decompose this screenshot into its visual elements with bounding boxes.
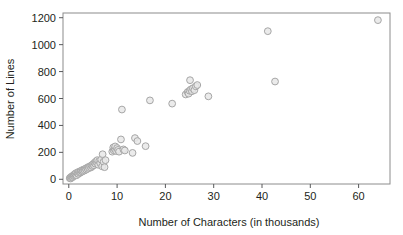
x-tick-label: 20 [159,190,171,202]
y-tick-label: 0 [50,173,56,185]
data-point [101,164,108,171]
data-point [102,157,109,164]
x-tick-label: 50 [304,190,316,202]
x-tick-label: 10 [111,190,123,202]
data-point [118,136,125,143]
x-axis-title: Number of Characters (in thousands) [139,216,320,228]
figure-background [0,0,403,235]
data-point [187,77,194,84]
data-point [205,93,212,100]
x-tick-label: 30 [208,190,220,202]
y-tick-label: 600 [38,93,56,105]
data-point [194,82,201,89]
plot-canvas: 0102030405060 020040060080010001200 Numb… [0,0,403,235]
data-point [121,147,128,154]
data-point [169,100,176,107]
data-point [375,17,382,24]
data-point [129,150,136,157]
y-tick-label: 200 [38,146,56,158]
y-axis-title: Number of Lines [4,58,16,139]
y-tick-label: 400 [38,119,56,131]
data-point [142,143,149,150]
data-point [264,28,271,35]
x-tick-label: 40 [256,190,268,202]
data-point [119,106,126,113]
data-point [272,78,279,85]
data-point [134,138,141,145]
x-tick-label: 0 [66,190,72,202]
y-tick-label: 800 [38,66,56,78]
data-point [147,97,154,104]
y-tick-label: 1000 [32,39,56,51]
x-tick-label: 60 [352,190,364,202]
scatter-plot-figure: 0102030405060 020040060080010001200 Numb… [0,0,403,235]
y-tick-label: 1200 [32,12,56,24]
